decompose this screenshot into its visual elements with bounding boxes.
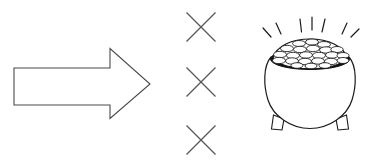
scene-svg bbox=[0, 0, 370, 164]
illustration-canvas bbox=[0, 0, 370, 164]
